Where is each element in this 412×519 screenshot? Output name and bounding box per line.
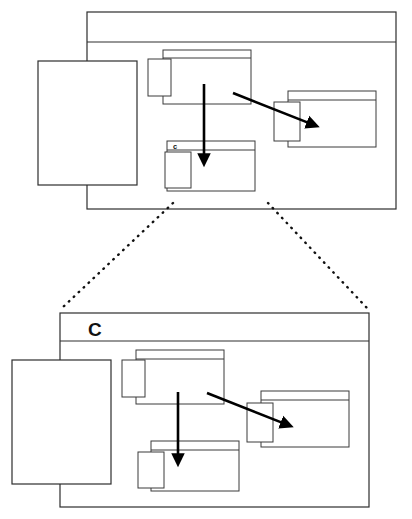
detail-bottom-center-group: [138, 441, 239, 491]
detail-top-center-window: [136, 350, 224, 404]
detail-label-c: C: [88, 319, 102, 340]
detail-right-badge: [247, 403, 273, 442]
overview-top-center-group: [148, 50, 251, 104]
diagram-svg: c C: [0, 0, 412, 519]
overview-top-center-badge: [148, 59, 171, 96]
detail-top-center-group: [122, 350, 224, 404]
zoom-line-left: [62, 203, 173, 308]
detail-left-panel: [12, 360, 111, 484]
detail-right-group: [247, 391, 349, 447]
overview-label-c: c: [173, 142, 177, 151]
overview-right-badge: [274, 102, 300, 141]
detail-top-center-badge: [122, 360, 145, 397]
overview-window: c: [38, 12, 396, 209]
detail-bottom-center-badge: [138, 452, 164, 488]
diagram-canvas: c C: [0, 0, 412, 519]
detail-window: C: [12, 313, 369, 507]
overview-bottom-center-badge: [165, 152, 191, 188]
overview-right-group: [274, 91, 376, 147]
zoom-connector-lines: [62, 203, 367, 308]
zoom-line-right: [268, 203, 367, 308]
overview-left-panel: [38, 61, 137, 185]
overview-bottom-center-group: c: [165, 141, 255, 191]
